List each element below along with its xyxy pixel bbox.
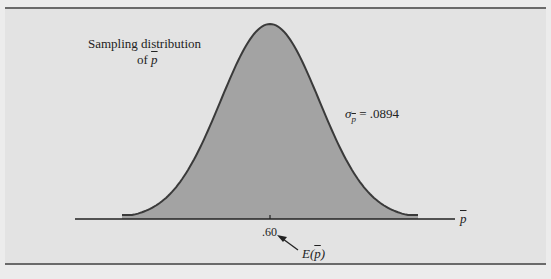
x-tick-label: .60 xyxy=(262,225,277,240)
x-axis-label: p xyxy=(460,211,467,227)
chart-title-line1: Sampling distribution xyxy=(88,36,201,52)
title-pbar: p xyxy=(151,52,158,67)
title-of: of xyxy=(137,52,151,67)
chart-title-line2: of p xyxy=(137,52,158,68)
expected-value-label: E(p) xyxy=(302,246,325,262)
std-error-label: σp = .0894 xyxy=(345,106,399,124)
ev-prefix: E( xyxy=(302,246,314,261)
annotation-arrow-shaft xyxy=(283,239,298,250)
std-error-value: = .0894 xyxy=(356,106,399,121)
ev-suffix: ) xyxy=(321,246,325,261)
